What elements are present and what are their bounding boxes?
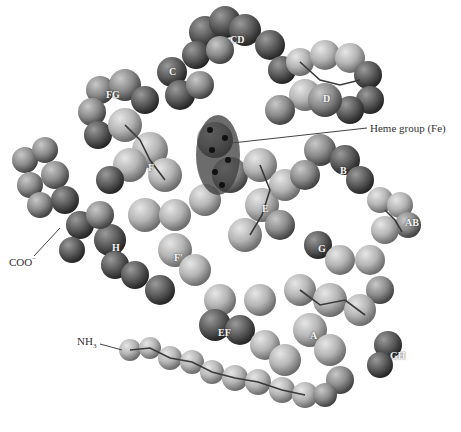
label-helix-c: C [169, 67, 176, 77]
label-helix-g: G [318, 244, 326, 254]
protein-structure-graphic [0, 0, 461, 432]
label-helix-h: H [112, 243, 120, 253]
label-helix-d: D [323, 94, 330, 104]
myoglobin-figure: CD C FG D F B E AB H G F' EF A GH Heme g… [0, 0, 461, 432]
heme-leader-line [232, 128, 367, 143]
label-helix-gh: GH [390, 351, 406, 361]
heme-group-graphic [196, 115, 240, 195]
nh-text: NH [77, 335, 93, 347]
label-helix-fg: FG [106, 90, 120, 100]
label-helix-f: F [148, 163, 154, 173]
label-helix-cd: CD [230, 35, 244, 45]
coo-charge: − [32, 255, 36, 263]
amino-terminus-callout: NH3 [77, 336, 96, 350]
atom-clusters [12, 6, 421, 408]
label-helix-ab: AB [405, 218, 419, 228]
coo-text: COO [9, 256, 32, 268]
label-helix-f-prime: F' [174, 253, 183, 263]
nh3-subscript: 3 [93, 342, 97, 350]
label-helix-ef: EF [218, 328, 231, 338]
coo-leader-line [34, 228, 60, 256]
nh3-leader-line [100, 344, 122, 350]
heme-group-callout: Heme group (Fe) [370, 123, 446, 134]
label-helix-e: E [262, 204, 269, 214]
label-helix-b: B [340, 166, 347, 176]
label-helix-a: A [310, 331, 317, 341]
carboxyl-terminus-callout: COO− [9, 256, 36, 268]
